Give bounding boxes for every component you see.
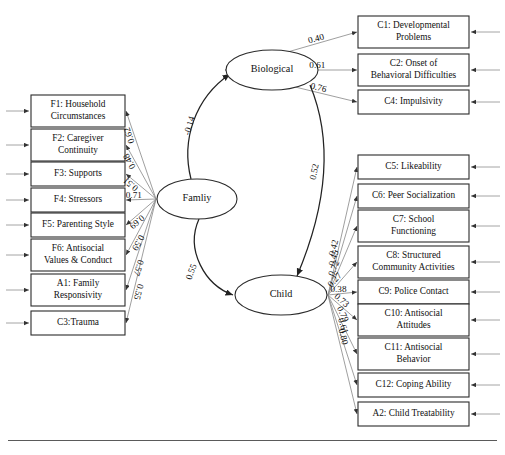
variable-label: A2: Child Treatability [372, 408, 454, 418]
observed-variable-c6: C6: Peer Socialization [358, 184, 469, 208]
structural-path-family-to-child [194, 219, 233, 295]
structural-path-family-to-biological [188, 74, 230, 179]
observed-variable-f5: F5: Parenting Style [31, 213, 125, 237]
variable-label: A1: FamilyResponsivity [54, 279, 103, 300]
variable-label: F2: CaregiverContinuity [52, 134, 104, 155]
coefficient-label-c2: 0.61 [309, 60, 325, 70]
observed-variable-c8: C8: StructuredCommunity Activities [358, 246, 469, 278]
latent-label: Biological [251, 63, 294, 74]
coefficient-label-c1: 0.40 [307, 31, 326, 45]
observed-variable-f6: F6: AntisocialValues & Conduct [31, 239, 125, 271]
latent-label: Famliy [183, 192, 213, 203]
observed-variable-c11: C11: AntisocialBehavior [358, 338, 469, 370]
observed-variable-c5: C5: Likeability [358, 155, 469, 179]
variable-label: F4: Stressors [54, 194, 103, 204]
coefficient-label-c3: 0.55 [132, 283, 146, 301]
variable-label: F3: Supports [54, 168, 102, 178]
observed-variable-c1: C1: DevelopmentalProblems [358, 16, 469, 48]
observed-variable-f1: F1: HouseholdCircumstances [31, 95, 125, 127]
variable-label: C4: Impulsivity [384, 96, 443, 106]
variable-label: F5: Parenting Style [42, 219, 114, 229]
variable-label: C12: Coping Ability [376, 379, 452, 389]
observed-variable-a2: A2: Child Treatability [358, 402, 469, 426]
footer-divider [8, 440, 497, 441]
variable-label: C5: Likeability [385, 161, 442, 171]
coefficient-label-a1: 0.57 [131, 259, 146, 278]
sem-diagram: F1: HouseholdCircumstancesF2: CaregiverC… [0, 0, 505, 455]
latent-variable-family: Famliy [157, 179, 237, 219]
observed-variable-c12: C12: Coping Ability [358, 373, 469, 397]
coefficient-label-family-biological: -0.14 [182, 115, 197, 137]
latent-label: Child [270, 288, 293, 299]
variable-label: C9: Police Contact [378, 286, 449, 296]
observed-variable-c7: C7: SchoolFunctioning [358, 210, 469, 242]
observed-variable-a1: A1: FamilyResponsivity [31, 274, 125, 306]
variable-label: F1: HouseholdCircumstances [50, 100, 105, 121]
variable-label: F6: AntisocialValues & Conduct [44, 244, 113, 265]
variable-label: C3:Trauma [57, 317, 99, 327]
coefficient-label-f5: 0.69 [127, 213, 146, 231]
sem-canvas: F1: HouseholdCircumstancesF2: CaregiverC… [0, 0, 505, 455]
latent-variable-biological: Biological [226, 50, 318, 90]
observed-variable-f4: F4: Stressors [31, 188, 125, 212]
observed-variable-c4: C4: Impulsivity [358, 90, 469, 114]
coefficient-label-biological-child: 0.52 [308, 163, 321, 181]
variable-label: C7: SchoolFunctioning [391, 215, 436, 236]
structural-path-biological-to-child [297, 85, 324, 276]
observed-variable-f2: F2: CaregiverContinuity [31, 129, 125, 161]
variable-label: C6: Peer Socialization [372, 190, 455, 200]
observed-variable-c3: C3:Trauma [31, 311, 125, 335]
coefficient-label-family-child: 0.55 [184, 262, 199, 281]
latent-variable-group: BiologicalFamliyChild [157, 50, 327, 315]
observed-variable-c2: C2: Onset ofBehavioral Difficulties [358, 54, 469, 86]
observed-variable-c10: C10: AntisocialAttitudes [358, 304, 469, 336]
coefficient-label-f4: 0.71 [126, 190, 142, 200]
observed-variable-f3: F3: Supports [31, 162, 125, 186]
latent-variable-child: Child [235, 275, 327, 315]
observed-variable-c9: C9: Police Contact [358, 280, 469, 304]
